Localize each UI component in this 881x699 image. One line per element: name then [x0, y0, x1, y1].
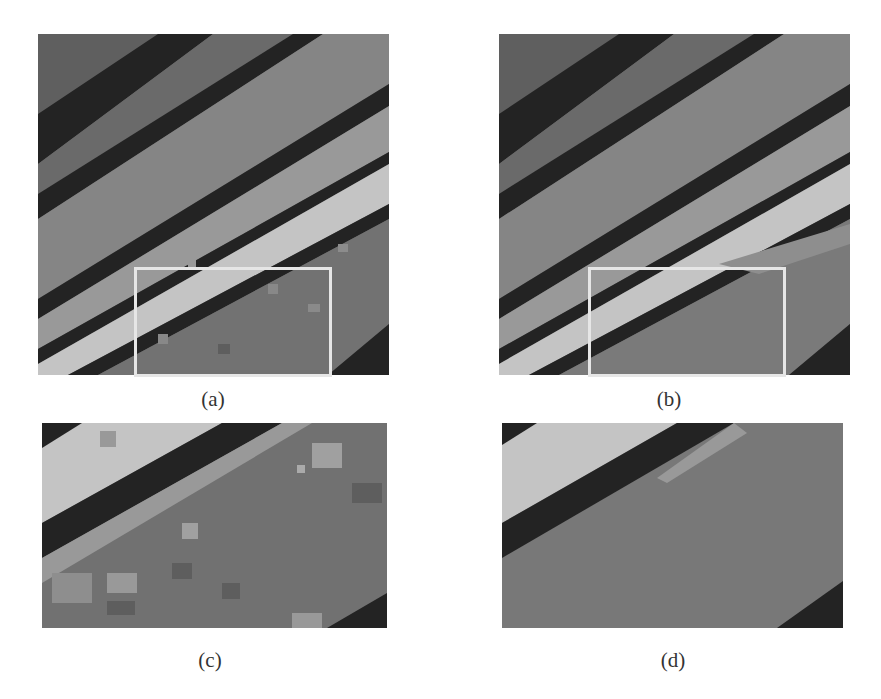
- caption-c: (c): [180, 648, 240, 673]
- caption-a: (a): [183, 387, 243, 412]
- panel-d-zoomed-region: [502, 423, 843, 628]
- panel-c-zoomed-region: [42, 423, 387, 628]
- roi-box-a: [134, 267, 332, 377]
- caption-d: (d): [643, 648, 703, 673]
- roi-box-b: [588, 267, 786, 377]
- caption-b: (b): [639, 387, 699, 412]
